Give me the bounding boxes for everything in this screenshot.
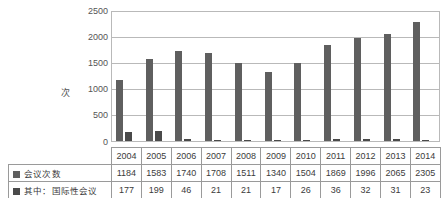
- y-tick-1000: 1000: [72, 85, 108, 94]
- table-header-year-2013: 2013: [381, 148, 411, 165]
- bar-group-2004: [112, 12, 142, 141]
- bar-2014-series2: [422, 140, 429, 141]
- table-cell-2013-series2: 31: [381, 182, 411, 199]
- bar-group-container: [112, 12, 439, 141]
- bar-2005-series2: [155, 131, 162, 141]
- table-cell-2012-series2: 32: [351, 182, 381, 199]
- table-cell-2005-series2: 199: [141, 182, 171, 199]
- table-header-year-2010: 2010: [291, 148, 321, 165]
- table-corner-cell: [9, 148, 112, 165]
- bar-2011-series2: [333, 139, 340, 141]
- table-cell-2011-series2: 36: [321, 182, 351, 199]
- table-row: 会议次数118415831740170815111340150418691996…: [9, 165, 441, 182]
- table-header-year-2009: 2009: [261, 148, 291, 165]
- data-table: 2004200520062007200820092010201120122013…: [8, 147, 441, 198]
- legend-label: 会议次数: [24, 169, 61, 179]
- table-cell-2014-series1: 2305: [410, 165, 440, 182]
- table-row: 其中：国际性会议177199462121172636323123: [9, 182, 441, 199]
- bar-2010-series1: [294, 63, 301, 141]
- bar-group-2012: [350, 12, 380, 141]
- table-cell-2010-series2: 26: [291, 182, 321, 199]
- legend-label: 其中：国际性会议: [24, 186, 98, 196]
- bar-group-2007: [201, 12, 231, 141]
- bar-2006-series2: [184, 139, 191, 141]
- y-tick-0: 0: [72, 138, 108, 147]
- y-tick-2500: 2500: [72, 7, 108, 16]
- legend-item-series2: 其中：国际性会议: [9, 182, 112, 199]
- table-cell-2008-series1: 1511: [231, 165, 261, 182]
- y-tick-1500: 1500: [72, 59, 108, 68]
- chart-figure: 次 2500 2000 1500 1000 500 0 200420052006…: [0, 0, 445, 198]
- bar-2006-series1: [175, 51, 182, 141]
- table-header-year-2014: 2014: [410, 148, 440, 165]
- bar-2009-series1: [265, 72, 272, 141]
- bar-group-2005: [142, 12, 172, 141]
- table-header-year-2008: 2008: [231, 148, 261, 165]
- table-cell-2008-series2: 21: [231, 182, 261, 199]
- bar-group-2010: [290, 12, 320, 141]
- bar-2013-series2: [393, 139, 400, 141]
- bar-2008-series1: [235, 63, 242, 141]
- table-cell-2011-series1: 1869: [321, 165, 351, 182]
- table-cell-2004-series1: 1184: [112, 165, 142, 182]
- bar-group-2011: [320, 12, 350, 141]
- table-cell-2004-series2: 177: [112, 182, 142, 199]
- table-cell-2009-series1: 1340: [261, 165, 291, 182]
- table-cell-2006-series1: 1740: [171, 165, 201, 182]
- table-cell-2007-series2: 21: [201, 182, 231, 199]
- bar-2005-series1: [146, 59, 153, 141]
- table-cell-2014-series2: 23: [410, 182, 440, 199]
- bar-2004-series2: [125, 132, 132, 141]
- legend-swatch-icon: [13, 188, 20, 195]
- y-axis-title: 次: [57, 88, 73, 99]
- table-header-year-2011: 2011: [321, 148, 351, 165]
- bar-2004-series1: [116, 80, 123, 141]
- table-cell-2005-series1: 1583: [141, 165, 171, 182]
- table-header-year-2004: 2004: [112, 148, 142, 165]
- bar-2011-series1: [324, 45, 331, 141]
- bar-2014-series1: [413, 22, 420, 141]
- bar-group-2014: [409, 12, 439, 141]
- table-header-year-2007: 2007: [201, 148, 231, 165]
- legend-item-series1: 会议次数: [9, 165, 112, 182]
- table-header-year-2012: 2012: [351, 148, 381, 165]
- table-cell-2012-series1: 1996: [351, 165, 381, 182]
- bar-2013-series1: [384, 34, 391, 141]
- bar-group-2008: [231, 12, 261, 141]
- bar-2007-series2: [214, 140, 221, 141]
- bar-2012-series2: [363, 139, 370, 141]
- bar-group-2013: [380, 12, 410, 141]
- plot-area: [111, 11, 440, 142]
- table-cell-2013-series1: 2065: [381, 165, 411, 182]
- bar-2007-series1: [205, 53, 212, 141]
- table-row-years: 2004200520062007200820092010201120122013…: [9, 148, 441, 165]
- bar-2009-series2: [274, 140, 281, 141]
- bar-group-2009: [261, 12, 291, 141]
- table-header-year-2006: 2006: [171, 148, 201, 165]
- bar-2008-series2: [244, 140, 251, 141]
- legend-swatch-icon: [13, 171, 20, 178]
- table-header-year-2005: 2005: [141, 148, 171, 165]
- bar-2012-series1: [354, 38, 361, 141]
- table-cell-2006-series2: 46: [171, 182, 201, 199]
- y-tick-2000: 2000: [72, 33, 108, 42]
- bar-group-2006: [171, 12, 201, 141]
- table-cell-2009-series2: 17: [261, 182, 291, 199]
- table-cell-2007-series1: 1708: [201, 165, 231, 182]
- bar-2010-series2: [303, 140, 310, 141]
- y-tick-500: 500: [72, 111, 108, 120]
- table-cell-2010-series1: 1504: [291, 165, 321, 182]
